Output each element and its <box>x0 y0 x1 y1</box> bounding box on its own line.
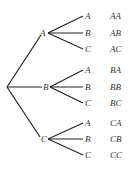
leaf-AB: B <box>85 28 91 38</box>
edge-A-C <box>48 33 83 49</box>
outcome-CC: CC <box>110 150 123 160</box>
edge-C-C <box>48 139 83 155</box>
outcome-AA: AA <box>109 11 121 21</box>
edge-B-A <box>50 70 83 87</box>
outcome-AC: AC <box>109 44 122 54</box>
outcome-CB: CB <box>110 134 122 144</box>
outcome-CA: CA <box>110 118 122 128</box>
node-B: B <box>43 82 49 92</box>
outcome-BB: BB <box>110 82 121 92</box>
tree-diagram: A A B C AA AB AC B A B C BA BB BC C A B … <box>0 0 131 170</box>
leaf-BC: C <box>85 98 92 108</box>
leaf-AC: C <box>85 44 92 54</box>
outcome-BC: BC <box>110 98 122 108</box>
leaf-CA: A <box>84 118 91 128</box>
node-A: A <box>39 28 46 38</box>
leaf-CB: B <box>85 134 91 144</box>
outcome-BA: BA <box>110 65 121 75</box>
node-C: C <box>41 134 48 144</box>
leaf-BB: B <box>85 82 91 92</box>
edge-root-A <box>7 35 41 87</box>
outcome-AB: AB <box>109 28 121 38</box>
edge-B-C <box>50 87 83 103</box>
edge-A-A <box>48 16 83 33</box>
edge-C-A <box>48 123 83 139</box>
edge-root-C <box>7 87 40 137</box>
leaf-BA: A <box>84 65 91 75</box>
leaf-AA: A <box>84 11 91 21</box>
leaf-CC: C <box>85 150 92 160</box>
